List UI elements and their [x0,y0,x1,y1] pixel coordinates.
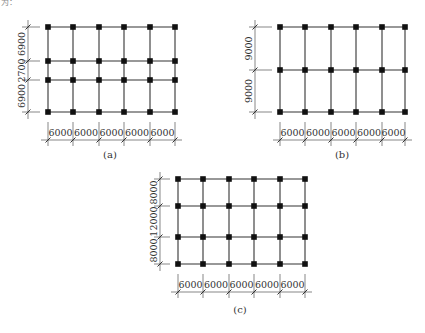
column-square-icon [96,109,102,115]
column-square-icon [402,109,408,115]
bay-width-label: 6000 [178,279,202,290]
column-square-icon [200,203,206,209]
column-square-icon [70,24,76,30]
column-square-icon [277,176,283,182]
column-square-icon [121,109,127,115]
bay-width-label: 6000 [229,279,253,290]
column-square-icon [302,261,308,267]
column-square-icon [172,109,178,115]
bay-width-label: 6000 [150,127,174,138]
bay-depth-label: 9000 [243,79,254,103]
column-square-icon [172,24,178,30]
column-square-icon [402,24,408,30]
bay-depth-label: 8000 [148,180,159,204]
column-square-icon [70,77,76,83]
bay-width-label: 6000 [280,127,304,138]
bay-width-label: 6000 [48,127,72,138]
bay-width-label: 6000 [357,127,381,138]
bay-depth-label: 9000 [243,36,254,60]
column-square-icon [226,203,232,209]
bay-depth-label: 6900 [16,32,27,56]
column-square-icon [200,234,206,240]
figure-caption: (a) [103,149,117,160]
column-square-icon [328,67,334,73]
bay-width-label: 6000 [331,127,355,138]
column-square-icon [96,24,102,30]
bay-depth-label: 12000 [148,206,159,236]
column-square-icon [277,234,283,240]
column-square-icon [175,176,181,182]
column-square-icon [251,261,257,267]
column-square-icon [302,67,308,73]
column-square-icon [328,24,334,30]
column-square-icon [277,109,283,115]
column-square-icon [45,109,51,115]
column-square-icon [251,203,257,209]
figure-caption: (b) [335,149,349,160]
column-square-icon [172,58,178,64]
column-square-icon [147,109,153,115]
bay-width-label: 6000 [306,127,330,138]
column-square-icon [70,58,76,64]
bay-width-label: 6000 [381,127,405,138]
column-square-icon [45,77,51,83]
column-square-icon [45,58,51,64]
column-square-icon [251,176,257,182]
bay-width-label: 6000 [74,127,98,138]
bay-width-label: 6000 [125,127,149,138]
column-square-icon [353,109,359,115]
column-square-icon [302,176,308,182]
bay-width-label: 6000 [99,127,123,138]
column-square-icon [379,24,385,30]
column-square-icon [302,24,308,30]
bay-depth-label: 6900 [16,84,27,108]
column-square-icon [200,261,206,267]
column-square-icon [121,77,127,83]
column-square-icon [121,58,127,64]
figure-c-column-grid: 600060006000600060008000120008000(c) [148,172,312,315]
column-square-icon [175,234,181,240]
bay-depth-label: 2700 [16,58,27,82]
column-square-icon [226,176,232,182]
figure-caption: (c) [233,304,247,315]
bay-width-label: 6000 [280,279,304,290]
column-square-icon [147,24,153,30]
column-square-icon [172,77,178,83]
figure-a-column-grid: 60006000600060006000690027006900(a) [16,20,182,160]
column-square-icon [302,234,308,240]
column-square-icon [226,261,232,267]
column-square-icon [402,67,408,73]
column-square-icon [302,203,308,209]
column-square-icon [379,109,385,115]
column-square-icon [45,24,51,30]
column-square-icon [277,261,283,267]
column-square-icon [353,24,359,30]
column-square-icon [96,58,102,64]
column-square-icon [277,67,283,73]
column-square-icon [175,261,181,267]
column-square-icon [277,24,283,30]
column-square-icon [379,67,385,73]
column-square-icon [277,203,283,209]
column-square-icon [353,67,359,73]
column-square-icon [251,234,257,240]
column-square-icon [96,77,102,83]
column-square-icon [121,24,127,30]
bay-depth-label: 8000 [148,238,159,262]
figure-b-column-grid: 6000600060006000600090009000(b) [243,20,412,160]
column-square-icon [70,109,76,115]
structural-grid-diagrams: 60006000600060006000690027006900(a) 6000… [0,0,425,333]
column-square-icon [147,58,153,64]
column-square-icon [175,203,181,209]
column-square-icon [200,176,206,182]
bay-width-label: 6000 [204,279,228,290]
column-square-icon [328,109,334,115]
column-square-icon [302,109,308,115]
bay-width-label: 6000 [255,279,279,290]
column-square-icon [226,234,232,240]
column-square-icon [147,77,153,83]
